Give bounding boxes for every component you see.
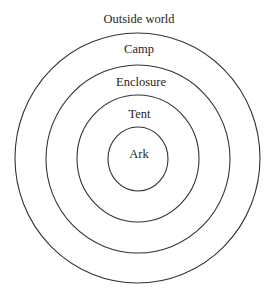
concentric-zones-diagram: Outside world Camp Enclosure Tent Ark [0, 0, 275, 306]
label-outside-world: Outside world [103, 12, 175, 26]
label-camp: Camp [124, 42, 154, 56]
label-enclosure: Enclosure [116, 75, 166, 89]
label-tent: Tent [128, 107, 151, 121]
label-ark: Ark [129, 147, 149, 161]
